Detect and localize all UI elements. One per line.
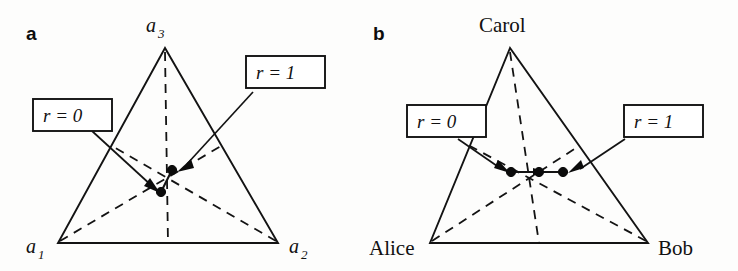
panel-b-median-from-apex	[510, 52, 539, 243]
panel-b-datapoint-mid	[534, 167, 543, 176]
panel-b-callout-r1: r = 1	[624, 105, 703, 137]
panel-a: a a 3 a 1 a 2	[0, 0, 369, 271]
panel-a-left-vertex-label: a 1	[26, 235, 45, 262]
panel-a-datapoint-r0	[156, 187, 165, 196]
panel-a-left-vertex-label-subscript: 1	[38, 247, 45, 262]
panel-a-apex-label: a 3	[146, 14, 165, 41]
panel-b: b Carol Alice Bob r = 0 r =	[369, 0, 738, 271]
panel-a-datapoint-r1	[167, 165, 176, 174]
panel-a-callout-r1-text: r = 1	[256, 62, 295, 83]
panel-b-apex-label: Carol	[479, 13, 526, 37]
figure-container: a a 3 a 1 a 2	[0, 0, 738, 271]
panel-b-arrowhead-r1	[568, 160, 584, 173]
panel-b-letter: b	[373, 23, 385, 44]
panel-b-callout-r0-text: r = 0	[417, 111, 457, 132]
panel-a-letter: a	[26, 23, 37, 44]
panel-a-right-vertex-label-text: a	[289, 235, 299, 257]
panel-a-apex-label-subscript: 3	[157, 26, 165, 41]
panel-b-leader-r1	[580, 139, 625, 169]
panel-a-right-vertex-label: a 2	[289, 235, 308, 262]
panel-b-callout-r1-text: r = 1	[634, 111, 673, 132]
panel-a-median-from-apex	[165, 52, 168, 243]
panel-a-callout-r0-text: r = 0	[43, 105, 83, 126]
panel-b-datapoint-r0	[506, 167, 515, 176]
panel-a-right-vertex-label-subscript: 2	[301, 247, 308, 262]
panel-a-arrowhead-r1	[177, 159, 194, 172]
panel-b-datapoint-r1	[558, 167, 567, 176]
panel-a-callout-r1: r = 1	[246, 56, 325, 88]
panel-b-left-vertex-label: Alice	[369, 236, 414, 260]
panel-b-leader-r0	[458, 139, 500, 168]
panel-a-apex-label-text: a	[146, 14, 156, 36]
panel-a-leader-r0	[92, 131, 152, 186]
panel-b-right-vertex-label: Bob	[658, 236, 693, 260]
panel-a-median-from-right-vertex	[112, 146, 276, 241]
panel-a-left-vertex-label-text: a	[26, 235, 36, 257]
panel-a-callout-r0: r = 0	[33, 99, 112, 131]
panel-b-callout-r0: r = 0	[407, 105, 486, 137]
